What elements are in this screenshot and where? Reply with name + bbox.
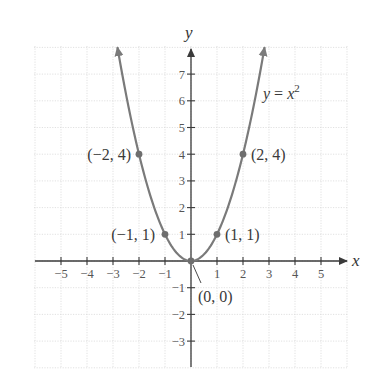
x-tick-label: 2 bbox=[240, 267, 246, 281]
origin-leader-line bbox=[193, 265, 201, 283]
points-layer: (−2, 4)(−1, 1)(0, 0)(1, 1)(2, 4) bbox=[87, 146, 285, 306]
data-point bbox=[162, 231, 169, 238]
y-tick-label: 3 bbox=[179, 174, 185, 188]
data-point bbox=[214, 231, 221, 238]
point-label: (−2, 4) bbox=[87, 146, 131, 164]
data-point bbox=[188, 258, 195, 265]
x-tick-label: −1 bbox=[158, 267, 171, 281]
y-tick-label: −2 bbox=[172, 308, 185, 322]
y-tick-label: 2 bbox=[179, 201, 185, 215]
equation-equals: = bbox=[270, 85, 287, 102]
point-label: (2, 4) bbox=[251, 146, 286, 164]
y-tick-label: 1 bbox=[179, 228, 185, 242]
x-tick-label: 1 bbox=[214, 267, 220, 281]
y-tick-label: 5 bbox=[179, 121, 185, 135]
equation-label: y = x2 bbox=[261, 82, 300, 103]
parabola-chart: −5−4−3−2−112345−3−2−11234567 (−2, 4)(−1,… bbox=[0, 0, 383, 390]
x-tick-label: 5 bbox=[318, 267, 324, 281]
x-tick-label: −5 bbox=[54, 267, 67, 281]
point-label: (−1, 1) bbox=[111, 226, 155, 244]
x-tick-label: −2 bbox=[132, 267, 145, 281]
x-tick-label: 4 bbox=[292, 267, 299, 281]
x-tick-label: −3 bbox=[106, 267, 119, 281]
x-tick-label: −4 bbox=[80, 267, 94, 281]
x-tick-label: 3 bbox=[266, 267, 272, 281]
y-tick-label: −1 bbox=[172, 281, 185, 295]
point-label: (1, 1) bbox=[225, 226, 260, 244]
y-tick-label: 4 bbox=[179, 148, 186, 162]
point-label: (0, 0) bbox=[198, 288, 233, 306]
data-point bbox=[240, 151, 247, 158]
y-tick-label: −3 bbox=[172, 335, 185, 349]
y-tick-label: 7 bbox=[179, 68, 185, 82]
data-point bbox=[136, 151, 143, 158]
x-axis-label: x bbox=[351, 251, 360, 270]
equation-var: x bbox=[286, 85, 294, 102]
y-axis-label: y bbox=[183, 23, 193, 42]
ticks: −5−4−3−2−112345−3−2−11234567 bbox=[54, 68, 324, 349]
y-tick-label: 6 bbox=[179, 94, 185, 108]
equation-exponent: 2 bbox=[294, 82, 300, 94]
